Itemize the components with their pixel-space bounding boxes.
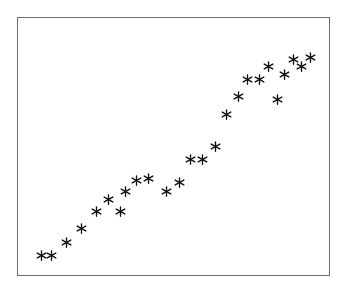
plot-data-area <box>18 18 329 275</box>
scatter-plot-figure <box>0 0 347 292</box>
scatter-point <box>254 74 265 85</box>
scatter-point <box>46 250 57 261</box>
scatter-point <box>115 206 126 217</box>
scatter-point <box>91 206 102 217</box>
scatter-point <box>279 69 290 80</box>
scatter-point <box>210 141 221 152</box>
scatter-point <box>161 186 172 197</box>
scatter-point <box>61 237 72 248</box>
plot-frame-border <box>17 17 330 276</box>
scatter-point <box>76 223 87 234</box>
scatter-point <box>174 177 185 188</box>
scatter-point <box>263 61 274 72</box>
scatter-point <box>197 154 208 165</box>
scatter-point <box>120 186 131 197</box>
scatter-point <box>288 54 299 65</box>
scatter-point <box>36 250 47 261</box>
scatter-point <box>305 52 316 63</box>
scatter-point <box>185 154 196 165</box>
scatter-point <box>296 61 307 72</box>
scatter-point <box>103 194 114 205</box>
scatter-point <box>233 91 244 102</box>
scatter-point <box>272 94 283 105</box>
scatter-point <box>242 74 253 85</box>
scatter-point <box>143 173 154 184</box>
scatter-point <box>221 109 232 120</box>
scatter-point <box>131 175 142 186</box>
